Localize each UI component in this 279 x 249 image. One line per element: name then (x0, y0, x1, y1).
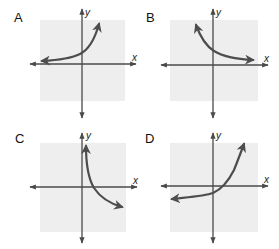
panel-label-b: B (146, 11, 155, 24)
panel-c-x-axis-label: x (133, 176, 138, 186)
panel-d-y-axis-label: y (216, 131, 221, 141)
panel-d-grid-background (170, 143, 258, 232)
panel-label-a: A (14, 11, 23, 24)
graph-panel-a (30, 9, 136, 118)
panel-c-y-axis-label: y (86, 131, 91, 141)
graph-panel-c (30, 133, 137, 243)
graph-set: A x y B x y C x y D x y (0, 0, 279, 249)
panel-a-x-axis-label: x (132, 53, 137, 63)
panel-d-x-axis-label: x (264, 175, 269, 185)
panel-label-c: C (15, 132, 24, 145)
panel-b-y-axis-label: y (216, 8, 221, 18)
panel-a-y-axis-label: y (85, 8, 90, 18)
panel-label-d: D (145, 132, 154, 145)
panel-b-x-axis-label: x (264, 54, 269, 64)
graphs-canvas (0, 0, 279, 249)
graph-panel-b (161, 9, 268, 118)
graph-panel-d (161, 133, 268, 243)
